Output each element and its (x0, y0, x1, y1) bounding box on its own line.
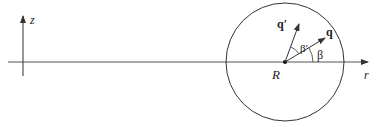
diagram-canvas: z r R q q′ β β′ (0, 0, 377, 127)
center-label: R (271, 67, 280, 82)
beta-label: β (317, 48, 323, 62)
beta-arc (309, 48, 313, 62)
beta-prime-arc (291, 47, 299, 54)
r-axis-label: r (364, 68, 369, 82)
z-axis-label: z (29, 13, 35, 27)
q-prime-vector (285, 24, 299, 62)
q-label: q (326, 25, 333, 39)
q-prime-label: q′ (277, 17, 287, 31)
beta-prime-label: β′ (300, 42, 308, 54)
